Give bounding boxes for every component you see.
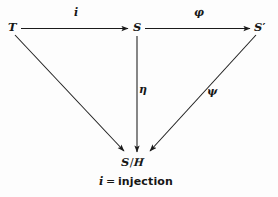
- script-H-symbol: H: [133, 157, 144, 168]
- edge-label-psi: ψ: [207, 86, 217, 97]
- commutative-diagram-figure: T S S′ S/H i φ η ψ i=injection: [0, 0, 278, 197]
- arrow-Sprime-to-quotient: [150, 35, 256, 151]
- caption-equals: =: [104, 175, 118, 188]
- arrow-T-to-quotient: [15, 35, 124, 151]
- edge-label-phi: φ: [194, 7, 204, 18]
- phi-symbol: φ: [194, 6, 204, 19]
- node-S: S: [133, 22, 141, 34]
- prime-mark: ′: [262, 20, 265, 34]
- figure-caption: i=injection: [99, 176, 173, 188]
- caption-symbol: i: [99, 174, 104, 188]
- edge-label-eta: η: [139, 84, 147, 95]
- node-S-label: S: [133, 20, 141, 34]
- node-S-prime: S′: [254, 22, 265, 34]
- node-T: T: [8, 22, 17, 34]
- edge-label-i-text: i: [74, 6, 78, 19]
- node-quotient: S/H: [121, 157, 144, 169]
- eta-symbol: η: [139, 83, 147, 96]
- psi-symbol: ψ: [207, 85, 217, 98]
- node-T-label: T: [8, 20, 17, 34]
- caption-text: injection: [118, 175, 173, 188]
- edge-label-i: i: [74, 7, 78, 18]
